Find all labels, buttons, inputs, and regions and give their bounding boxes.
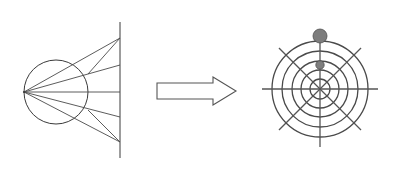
inner-marker bbox=[316, 61, 324, 69]
source-point-marker bbox=[23, 91, 25, 93]
ray-5 bbox=[24, 92, 120, 142]
arrow-shape bbox=[157, 77, 236, 105]
polar-axes bbox=[262, 31, 378, 147]
figure-canvas bbox=[0, 0, 402, 179]
ray-extension-lower bbox=[88, 38, 120, 74]
diagram-svg bbox=[0, 0, 402, 179]
outer-marker bbox=[313, 29, 327, 43]
ray-2 bbox=[24, 65, 120, 92]
point-source-ray-diagram bbox=[23, 22, 120, 158]
polar-radiation-pattern bbox=[262, 29, 378, 147]
transform-arrow bbox=[157, 77, 236, 105]
ray-4 bbox=[24, 92, 120, 117]
ray-extension-upper bbox=[88, 110, 120, 142]
